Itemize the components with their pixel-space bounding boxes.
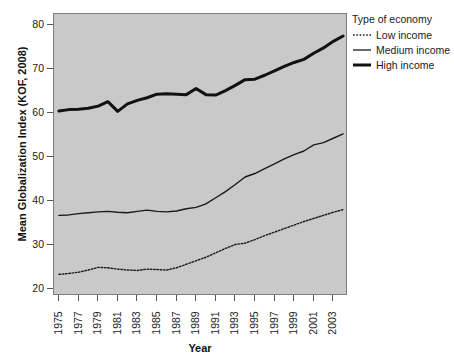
- legend-label: Low income: [376, 29, 432, 41]
- legend-label: Medium income: [376, 44, 450, 56]
- series-line: [59, 134, 343, 216]
- y-tick-label: 50: [32, 148, 44, 164]
- chart-figure: Mean Globalization Index (KOF, 2008) 203…: [0, 0, 454, 363]
- chart-legend: Type of economy Low incomeMedium incomeH…: [352, 13, 452, 72]
- series-line: [59, 36, 343, 111]
- plot-panel: [53, 13, 347, 295]
- y-axis: Mean Globalization Index (KOF, 2008) 203…: [0, 0, 53, 308]
- x-axis-title: Year: [53, 342, 347, 354]
- series-line: [59, 210, 343, 275]
- legend-item[interactable]: High income: [352, 57, 452, 72]
- y-tick-label: 40: [32, 192, 44, 208]
- y-tick-label: 70: [32, 60, 44, 76]
- y-tick-label: 20: [32, 280, 44, 296]
- legend-label: High income: [376, 59, 434, 71]
- legend-title: Type of economy: [352, 13, 452, 25]
- legend-key-thick-icon: [352, 59, 372, 71]
- y-axis-title: Mean Globalization Index (KOF, 2008): [16, 4, 28, 284]
- legend-item[interactable]: Low income: [352, 27, 452, 42]
- legend-key-dotted-icon: [352, 29, 372, 41]
- legend-item[interactable]: Medium income: [352, 42, 452, 57]
- y-tick-label: 80: [32, 16, 44, 32]
- legend-key-thin-icon: [352, 44, 372, 56]
- y-tick-label: 30: [32, 236, 44, 252]
- plot-lines: [54, 14, 347, 295]
- y-tick-label: 60: [32, 104, 44, 120]
- legend-items: Low incomeMedium incomeHigh income: [352, 27, 452, 72]
